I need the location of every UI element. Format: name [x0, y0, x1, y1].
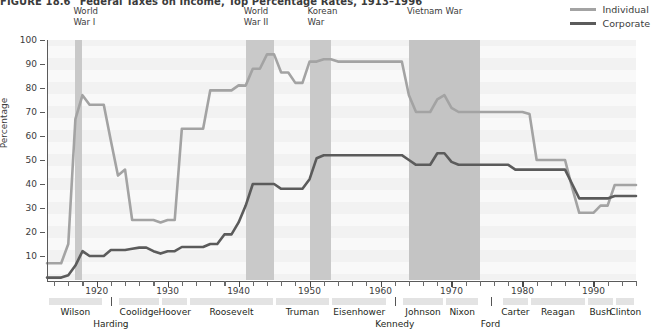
president-term-bar [332, 298, 386, 305]
y-tick-label: 100 [20, 35, 37, 45]
x-tick-label: 1920 [85, 286, 108, 296]
war-annotation-label: WorldWar I [73, 6, 98, 27]
president-term-bar [276, 298, 330, 305]
president-label: Carter [501, 307, 529, 317]
x-tick-label: 1980 [511, 286, 534, 296]
x-tick-label: 1930 [156, 286, 179, 296]
war-annotation-line1: Vietnam War [407, 6, 462, 17]
war-annotation-line1: World [73, 6, 98, 17]
president-term-tick [395, 297, 396, 306]
y-tick-label: 70 [26, 107, 37, 117]
president-term-bar [588, 298, 613, 305]
president-bars [0, 298, 654, 306]
president-term-tick [111, 297, 112, 306]
x-tick-label: 1970 [440, 286, 463, 296]
y-tick-label: 60 [26, 131, 37, 141]
y-tick-label: 90 [26, 59, 37, 69]
y-tick-mark [40, 88, 45, 89]
president-label: Hoover [159, 307, 191, 317]
war-annotation-line2: War I [73, 17, 98, 28]
y-tick-label: 80 [26, 83, 37, 93]
president-label: Johnson [405, 307, 440, 317]
war-annotation-label: WorldWar II [244, 6, 269, 27]
president-term-bar [531, 298, 585, 305]
president-label: Roosevelt [210, 307, 254, 317]
y-tick-mark [40, 184, 45, 185]
series-lines [47, 40, 636, 280]
president-label: Reagan [541, 307, 575, 317]
y-tick-label: 20 [26, 227, 37, 237]
war-annotation-label: Vietnam War [407, 6, 462, 17]
president-label: Eisenhower [333, 307, 385, 317]
president-label: Kennedy [375, 319, 414, 329]
president-term-bar [190, 298, 272, 305]
president-term-bar [403, 298, 443, 305]
y-tick-label: 10 [26, 251, 37, 261]
y-tick-label: 30 [26, 203, 37, 213]
series-line-individual [47, 54, 636, 263]
president-term-bar [446, 298, 478, 305]
x-tick-label: 1940 [227, 286, 250, 296]
y-tick-mark [40, 256, 45, 257]
war-annotations: WorldWar IWorldWar IIKoreanWarVietnam Wa… [0, 6, 654, 40]
president-term-tick [491, 297, 492, 306]
president-term-bar [162, 298, 187, 305]
y-tick-label: 40 [26, 179, 37, 189]
war-annotation-label: KoreanWar [308, 6, 338, 27]
y-tick-mark [40, 232, 45, 233]
president-label: Harding [93, 319, 128, 329]
x-axis-labels: 19201930194019501960197019801990 [0, 286, 654, 298]
president-labels: WilsonHardingCoolidgeHooverRooseveltTrum… [0, 307, 654, 336]
x-tick-label: 1950 [298, 286, 321, 296]
president-label: Clinton [609, 307, 641, 317]
y-tick-mark [40, 112, 45, 113]
y-tick-mark [40, 160, 45, 161]
y-tick-mark [40, 136, 45, 137]
president-label: Wilson [61, 307, 91, 317]
president-label: Truman [286, 307, 320, 317]
series-line-corporate [47, 153, 636, 277]
president-label: Bush [589, 307, 611, 317]
president-term-bar [49, 298, 103, 305]
president-label: Ford [481, 319, 501, 329]
war-annotation-line1: World [244, 6, 269, 17]
president-label: Coolidge [120, 307, 159, 317]
x-tick-label: 1960 [369, 286, 392, 296]
y-axis-title: Percentage [0, 98, 9, 149]
war-annotation-line2: War [308, 17, 338, 28]
president-term-bar [616, 298, 634, 305]
y-axis-line [47, 40, 48, 281]
president-label: Nixon [449, 307, 475, 317]
war-annotation-line1: Korean [308, 6, 338, 17]
president-term-bar [119, 298, 159, 305]
president-term-bar [503, 298, 528, 305]
y-tick-mark [40, 64, 45, 65]
y-tick-mark [40, 208, 45, 209]
y-tick-label: 50 [26, 155, 37, 165]
x-tick-label: 1990 [582, 286, 605, 296]
plot-area [47, 40, 636, 280]
y-tick-mark [40, 40, 45, 41]
war-annotation-line2: War II [244, 17, 269, 28]
figure-root: FIGURE 18.6Federal Taxes on Income, Top … [0, 0, 654, 336]
